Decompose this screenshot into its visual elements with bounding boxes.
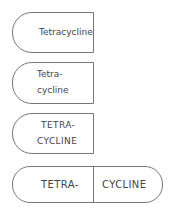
capsule-label-line1: Tetra-	[37, 68, 63, 81]
capsule-half-hyphenated-uppercase: TETRA- CYCLINE	[12, 113, 94, 154]
capsule-label-left: TETRA-	[41, 178, 79, 191]
capsule-divider	[93, 167, 94, 202]
capsule-label-line1: TETRA-	[41, 119, 75, 132]
capsule-label-line2: CYCLINE	[37, 135, 77, 148]
capsule-label-right: CYCLINE	[102, 178, 146, 191]
capsule-half-single-line: Tetracycline	[12, 12, 94, 53]
capsule-label: Tetracycline	[39, 26, 93, 39]
capsule-full-split: TETRA- CYCLINE	[12, 166, 163, 203]
capsule-half-hyphenated-lowercase: Tetra- cycline	[12, 62, 94, 104]
capsule-label-line2: cycline	[37, 84, 68, 97]
